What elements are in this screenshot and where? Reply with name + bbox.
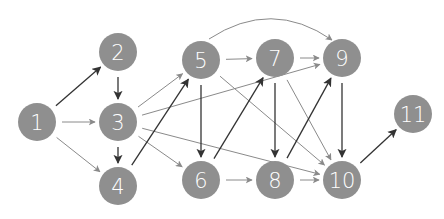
node-10: 10 bbox=[323, 161, 361, 199]
node-label: 10 bbox=[329, 169, 356, 193]
node-label: 6 bbox=[194, 169, 207, 193]
edge-3-to-10 bbox=[142, 128, 320, 174]
edge-3-to-5 bbox=[138, 74, 183, 107]
node-7: 7 bbox=[256, 39, 294, 77]
edge-3-to-6 bbox=[138, 136, 182, 167]
node-4: 4 bbox=[99, 167, 137, 205]
node-11: 11 bbox=[394, 95, 432, 133]
edge-8-to-9 bbox=[287, 78, 331, 158]
node-9: 9 bbox=[323, 39, 361, 77]
edge-1-to-4 bbox=[57, 137, 100, 171]
node-label: 9 bbox=[335, 47, 348, 71]
edge-4-to-5 bbox=[132, 79, 189, 165]
node-6: 6 bbox=[182, 161, 220, 199]
edge-5-to-9 bbox=[209, 19, 332, 40]
edge-3-to-9 bbox=[142, 64, 320, 115]
node-2: 2 bbox=[99, 33, 137, 71]
node-label: 5 bbox=[194, 49, 207, 73]
node-label: 2 bbox=[111, 41, 124, 65]
node-1: 1 bbox=[18, 103, 56, 141]
nodes-layer: 1234567891011 bbox=[18, 33, 432, 205]
node-label: 4 bbox=[111, 175, 124, 199]
node-label: 8 bbox=[268, 169, 281, 193]
node-label: 3 bbox=[111, 111, 124, 135]
edge-10-to-11 bbox=[360, 130, 396, 163]
node-label: 11 bbox=[400, 103, 427, 127]
node-label: 1 bbox=[30, 111, 43, 135]
node-3: 3 bbox=[99, 103, 137, 141]
edge-1-to-2 bbox=[56, 67, 101, 106]
edge-5-to-7 bbox=[226, 59, 252, 60]
edge-6-to-7 bbox=[214, 78, 263, 159]
node-label: 7 bbox=[268, 47, 281, 71]
node-8: 8 bbox=[256, 161, 294, 199]
node-5: 5 bbox=[182, 41, 220, 79]
directed-graph: 1234567891011 bbox=[0, 0, 444, 219]
edge-5-to-10 bbox=[220, 76, 324, 165]
edge-7-to-10 bbox=[287, 80, 331, 160]
